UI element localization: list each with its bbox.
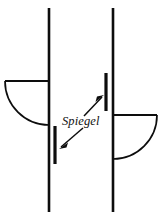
right-quarter-circle-element: [113, 115, 157, 159]
arrow-to-right-mirror: [84, 95, 104, 116]
spiegel-diagram-svg: Spiegel: [0, 0, 161, 219]
left-element-arc: [5, 81, 49, 125]
arrow-to-left-mirror-shaft: [61, 128, 83, 147]
arrow-to-left-mirror-head: [59, 143, 68, 150]
right-element-arc: [113, 115, 157, 159]
left-quarter-circle-element: [5, 81, 49, 125]
arrow-to-right-mirror-head: [96, 95, 105, 102]
spiegel-label: Spiegel: [62, 114, 100, 128]
arrow-to-left-mirror: [59, 128, 83, 149]
figure-canvas: Spiegel: [0, 0, 161, 219]
